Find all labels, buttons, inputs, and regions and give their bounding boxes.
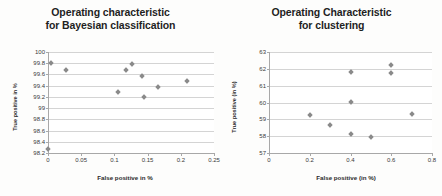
x-tick-label: 0 <box>46 157 49 163</box>
gridline-horizontal <box>48 74 214 75</box>
x-tick-mark <box>48 153 49 156</box>
chart-panel-bayesian: Operating characteristic for Bayesian cl… <box>0 0 221 196</box>
gridline-horizontal <box>269 86 432 87</box>
chart-title-line2: for Bayesian classification <box>0 19 221 32</box>
gridline-horizontal <box>269 119 432 120</box>
y-tick-label: 99.8 <box>33 60 45 66</box>
x-tick-mark <box>269 153 270 156</box>
y-axis-title-bayesian: True positive in % <box>12 76 18 138</box>
x-tick-label: 0.25 <box>208 157 220 163</box>
y-tick-label: 61 <box>259 83 266 89</box>
gridline-horizontal <box>48 131 214 132</box>
x-axis-title-bayesian: False positive in % <box>30 174 220 181</box>
y-tick-label: 63 <box>259 49 266 55</box>
plot-area-bayesian: 10099.899.699.499.29998.898.698.498.200.… <box>48 52 214 153</box>
x-tick-label: 0.1 <box>110 157 118 163</box>
gridline-horizontal <box>48 142 214 143</box>
x-tick-label: 0.6 <box>387 157 395 163</box>
x-tick-label: 0.2 <box>177 157 185 163</box>
chart-title-line2: for clustering <box>221 19 442 32</box>
y-tick-label: 60 <box>259 100 266 106</box>
x-tick-label: 0.4 <box>346 157 354 163</box>
y-tick-label: 99 <box>38 105 45 111</box>
x-tick-mark <box>310 153 311 156</box>
y-tick-label: 62 <box>259 66 266 72</box>
y-tick-label: 99.6 <box>33 71 45 77</box>
y-tick-label: 59 <box>259 116 266 122</box>
gridline-horizontal <box>48 119 214 120</box>
y-tick-label: 98.8 <box>33 116 45 122</box>
x-tick-mark <box>214 153 215 156</box>
x-tick-mark <box>432 153 433 156</box>
x-tick-mark <box>114 153 115 156</box>
chart-title-clustering: Operating Characteristic for clustering <box>221 6 442 32</box>
gridline-horizontal <box>48 108 214 109</box>
x-tick-mark <box>391 153 392 156</box>
gridline-horizontal <box>48 52 214 53</box>
plot-area-clustering: 6362616059585700.20.40.60.8 <box>269 52 432 153</box>
y-tick-label: 98.6 <box>33 128 45 134</box>
x-tick-mark <box>351 153 352 156</box>
x-axis-line <box>48 153 214 154</box>
x-tick-label: 0.8 <box>428 157 436 163</box>
chart-title-line1: Operating Characteristic <box>271 6 391 18</box>
chart-title-bayesian: Operating characteristic for Bayesian cl… <box>0 6 221 32</box>
y-axis-title-clustering: True positive (in %) <box>231 73 237 141</box>
x-tick-label: 0.15 <box>142 157 154 163</box>
x-tick-mark <box>81 153 82 156</box>
y-tick-label: 99.2 <box>33 94 45 100</box>
y-tick-label: 100 <box>35 49 45 55</box>
y-tick-label: 98.4 <box>33 139 45 145</box>
gridline-horizontal <box>48 86 214 87</box>
y-tick-label: 98.2 <box>33 150 45 156</box>
y-axis-line <box>48 52 49 153</box>
y-tick-label: 99.4 <box>33 83 45 89</box>
x-tick-mark <box>181 153 182 156</box>
x-tick-label: 0 <box>267 157 270 163</box>
y-tick-label: 57 <box>259 150 266 156</box>
x-tick-label: 0.2 <box>306 157 314 163</box>
x-tick-label: 0.05 <box>75 157 87 163</box>
gridline-horizontal <box>269 52 432 53</box>
x-tick-mark <box>148 153 149 156</box>
gridline-horizontal <box>48 97 214 98</box>
y-tick-label: 58 <box>259 133 266 139</box>
x-axis-title-clustering: False positive (in %) <box>251 174 441 181</box>
figure-container: Operating characteristic for Bayesian cl… <box>0 0 442 196</box>
chart-panel-clustering: Operating Characteristic for clustering … <box>221 0 442 196</box>
chart-title-line1: Operating characteristic <box>51 6 169 18</box>
y-axis-line <box>269 52 270 153</box>
